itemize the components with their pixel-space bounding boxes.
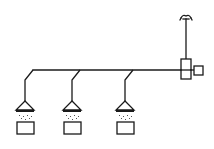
controller-unit [181,59,191,79]
nozzle-icon [116,101,134,110]
spray-dots [19,115,32,120]
container-box [117,122,134,134]
spray-branch [116,70,134,134]
spray-branch [63,70,81,134]
spray-branch [16,70,34,134]
container-box [17,122,34,134]
antenna-icon [180,15,192,59]
nozzle-icon [63,101,81,110]
container-box [64,122,81,134]
spray-dots [119,115,132,120]
spray-dots [66,115,79,120]
spray-system-diagram [0,0,214,149]
nozzle-icon [16,101,34,110]
side-box [194,66,203,75]
